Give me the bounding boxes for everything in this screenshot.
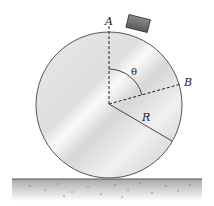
- label-theta: θ: [131, 66, 137, 77]
- label-b: B: [183, 76, 192, 89]
- block: [126, 15, 150, 33]
- ground: [12, 179, 202, 201]
- label-a: A: [104, 15, 113, 28]
- label-radius: R: [141, 111, 150, 124]
- disk-block-diagram: A B θ R: [0, 0, 214, 206]
